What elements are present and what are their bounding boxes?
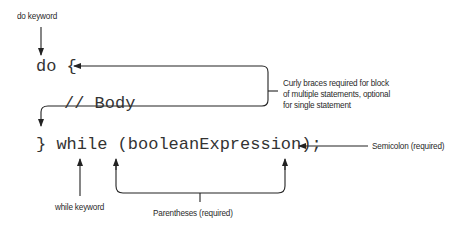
code-line-body: // Body xyxy=(64,94,135,114)
do-keyword-label: do keyword xyxy=(17,10,57,21)
parentheses-label: Parentheses (required) xyxy=(153,207,233,218)
curly-braces-label-line-3: for single statement xyxy=(283,99,351,110)
code-line-while: } while (booleanExpression); xyxy=(36,135,322,155)
curly-braces-label-line-2: of multiple statements, optional xyxy=(283,88,390,99)
while-keyword-label: while keyword xyxy=(55,201,104,212)
code-line-do: do { xyxy=(36,57,77,77)
parentheses-bracket xyxy=(116,162,285,193)
curly-braces-label-line-1: Curly braces required for block xyxy=(283,77,389,88)
semicolon-label: Semicolon (required) xyxy=(372,140,444,151)
connector-arrows xyxy=(0,0,476,229)
